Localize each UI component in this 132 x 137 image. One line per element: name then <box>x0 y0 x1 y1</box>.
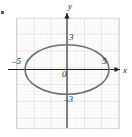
y-axis-arrow-icon <box>64 13 69 19</box>
y-tick-label-3: 3 <box>69 33 74 42</box>
x-tick-label-5: 5 <box>102 57 107 66</box>
y-tick-label-negative-3: –3 <box>64 95 73 104</box>
x-tick-label-negative-5: –5 <box>12 57 21 66</box>
y-axis-label: y <box>68 2 72 11</box>
x-axis-label: x <box>123 66 127 75</box>
ellipse-graph-figure: y x 3 –3 –5 5 0 <box>0 0 132 137</box>
origin-label: 0 <box>62 70 67 79</box>
